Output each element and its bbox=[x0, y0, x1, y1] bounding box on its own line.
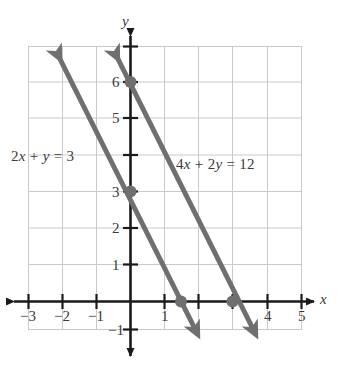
y-tick-label-5: 5 bbox=[112, 111, 120, 126]
equation-label-line-1: 2x + y = 3 bbox=[11, 149, 74, 164]
x-tick-label-neg3: −3 bbox=[20, 309, 36, 324]
eq1-rhs: 3 bbox=[67, 148, 75, 164]
y-tick-label-1: 1 bbox=[112, 258, 120, 273]
eq2-equals: = bbox=[222, 156, 239, 172]
point-0-3 bbox=[125, 186, 137, 198]
y-tick-label-neg1: −1 bbox=[108, 323, 124, 338]
x-tick-label-neg2: −2 bbox=[54, 309, 70, 324]
eq1-coef-x: 2 bbox=[11, 148, 19, 164]
equation-label-line-2: 4x + 2y = 12 bbox=[176, 157, 255, 172]
eq1-var-x: x bbox=[19, 148, 26, 164]
line-4x-plus-2y-equals-12 bbox=[118, 59, 256, 335]
x-tick-label-neg1: −1 bbox=[88, 309, 104, 324]
point-0-6 bbox=[125, 76, 137, 88]
eq2-plus: + bbox=[191, 156, 208, 172]
line-2x-plus-y-equals-3 bbox=[60, 59, 198, 335]
eq1-plus: + bbox=[26, 148, 43, 164]
x-tick-label-4: 4 bbox=[264, 309, 272, 324]
plot-svg bbox=[0, 0, 341, 368]
grid-lines bbox=[28, 47, 302, 331]
x-tick-label-5: 5 bbox=[298, 309, 306, 324]
x-tick-label-1: 1 bbox=[161, 309, 169, 324]
eq1-equals: = bbox=[50, 148, 67, 164]
y-tick-label-6: 6 bbox=[112, 75, 120, 90]
y-tick-label-2: 2 bbox=[112, 221, 120, 236]
eq2-rhs: 12 bbox=[239, 156, 255, 172]
y-tick-label-3: 3 bbox=[112, 185, 120, 200]
point-3-0 bbox=[227, 296, 239, 308]
eq1-var-y: y bbox=[43, 148, 50, 164]
x-axis bbox=[14, 294, 314, 309]
coordinate-graph-figure: −3 −2 −1 1 4 5 6 5 3 2 1 −1 x y 2x + y =… bbox=[0, 0, 341, 368]
point-1p5-0 bbox=[175, 296, 187, 308]
eq2-coef-x: 4 bbox=[176, 156, 184, 172]
y-axis-label: y bbox=[122, 14, 129, 29]
eq2-var-x: x bbox=[184, 156, 191, 172]
x-axis-label: x bbox=[320, 292, 327, 307]
